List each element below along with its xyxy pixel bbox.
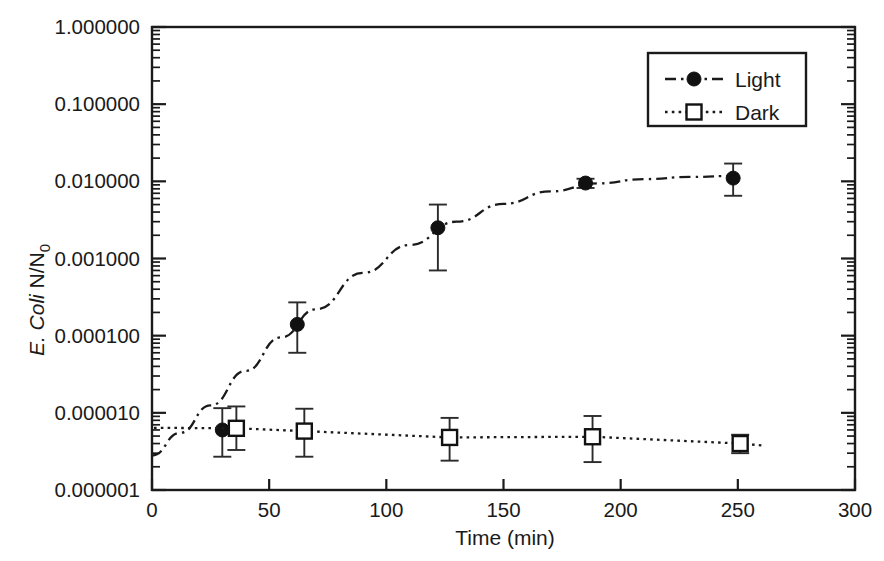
data-point-legend-dark [687,105,702,120]
y-tick-label: 0.000100 [54,324,140,347]
data-point-dark-3 [585,429,600,444]
y-tick-label: 0.000001 [54,478,140,501]
data-point-dark-0 [229,421,244,436]
data-point-legend-light [687,72,701,86]
legend-box [648,53,806,126]
data-point-light-2 [431,221,445,235]
x-tick-label: 50 [258,498,281,521]
y-tick-label: 0.010000 [54,169,140,192]
data-point-dark-1 [297,424,312,439]
y-tick-label: 0.000010 [54,401,140,424]
data-point-light-1 [290,317,304,331]
legend-label-light: Light [735,68,781,91]
y-tick-label: 0.100000 [54,92,140,115]
data-point-dark-2 [442,430,457,445]
data-point-dark-4 [733,436,748,451]
figure-root: 1.0000000.1000000.0100000.0010000.000100… [0,0,884,561]
y-tick-label: 1.000000 [54,15,140,38]
x-tick-label: 100 [369,498,403,521]
data-point-light-4 [726,171,740,185]
legend: LightDark [648,53,806,126]
x-axis-title: Time (min) [455,526,555,549]
x-tick-label: 250 [721,498,755,521]
y-axis-title-italic: E. Coli [25,293,48,356]
y-tick-label: 0.001000 [54,247,140,270]
x-tick-label: 300 [838,498,872,521]
data-point-light-3 [579,176,593,190]
x-tick-label: 150 [486,498,520,521]
data-point-light-0 [215,423,229,437]
chart-canvas: 1.0000000.1000000.0100000.0010000.000100… [0,0,884,561]
x-tick-label: 0 [146,498,157,521]
legend-label-dark: Dark [735,101,780,124]
y-axis-title-upright: N/N [25,252,48,294]
y-axis-title-subscript: 0 [36,244,53,252]
x-tick-label: 200 [604,498,638,521]
